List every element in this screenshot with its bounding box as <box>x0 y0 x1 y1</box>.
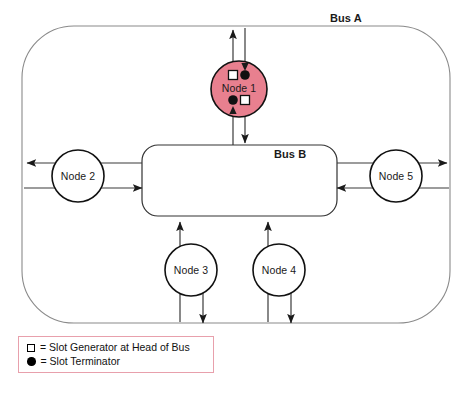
node3-label: Node 3 <box>166 264 216 276</box>
slot-generator-icon-top <box>229 71 238 80</box>
slot-terminator-icon-bottom <box>228 95 238 105</box>
node5-label: Node 5 <box>371 170 421 182</box>
bus-b-boundary <box>142 145 337 216</box>
legend-slot-terminator-text: = Slot Terminator <box>41 356 120 367</box>
node1-label: Node 1 <box>214 82 264 94</box>
black-dot-icon <box>27 357 36 366</box>
slot-generator-icon-bottom <box>241 96 250 105</box>
legend-slot-generator-text: = Slot Generator at Head of Bus <box>40 342 190 353</box>
diagram-canvas: Bus A Bus B Node 1 Node 2 Node 3 Node 4 … <box>0 0 472 393</box>
legend-item-slot-generator: = Slot Generator at Head of Bus <box>27 342 190 353</box>
slot-terminator-icon-top <box>240 70 250 80</box>
diagram-graphics <box>0 0 472 393</box>
bus-a-label: Bus A <box>330 12 362 24</box>
white-square-icon <box>27 344 35 352</box>
legend-item-slot-terminator: = Slot Terminator <box>27 356 120 367</box>
node4-label: Node 4 <box>254 264 304 276</box>
bus-b-label: Bus B <box>274 148 306 160</box>
legend-box: = Slot Generator at Head of Bus = Slot T… <box>18 336 214 373</box>
node2-label: Node 2 <box>53 170 103 182</box>
